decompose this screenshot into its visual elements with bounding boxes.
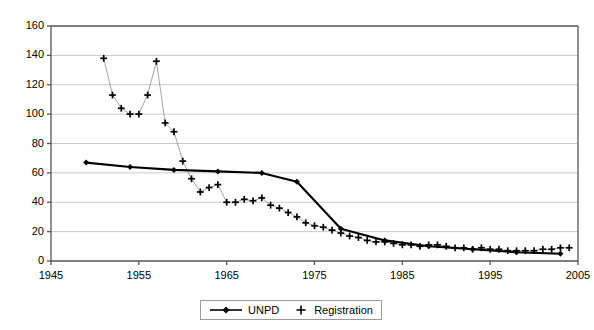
y-axis-tick-label-20: 20 [8, 225, 44, 237]
x-axis-tick-label-1955: 1955 [109, 269, 169, 281]
x-axis-tick-label-1985: 1985 [372, 269, 432, 281]
plus-marker-icon [293, 304, 309, 316]
y-axis-tick-label-100: 100 [8, 107, 44, 119]
y-axis-tick-label-160: 160 [8, 19, 44, 31]
y-axis-tick-label-40: 40 [8, 195, 44, 207]
chart-container: 020406080100120140160 194519551965197519… [0, 0, 594, 330]
x-axis-tick-label-1965: 1965 [197, 269, 257, 281]
y-axis-tick-label-140: 140 [8, 48, 44, 60]
chart-legend: UNPD Registration [200, 300, 382, 320]
y-axis-tick-label-80: 80 [8, 137, 44, 149]
line-diamond-marker-icon [209, 304, 243, 316]
y-axis-tick-label-0: 0 [8, 254, 44, 266]
y-axis-tick-label-120: 120 [8, 78, 44, 90]
x-axis-tick-label-2005: 2005 [548, 269, 594, 281]
series-line-registration [104, 58, 570, 250]
legend-label-registration: Registration [314, 304, 373, 316]
x-axis-tick-label-1975: 1975 [285, 269, 345, 281]
y-axis-tick-label-60: 60 [8, 166, 44, 178]
legend-item-unpd: UNPD [209, 304, 279, 316]
series-line-unpd [86, 163, 560, 254]
x-axis-tick-label-1995: 1995 [460, 269, 520, 281]
series-markers-unpd [83, 160, 563, 257]
x-axis-tick-label-1945: 1945 [21, 269, 81, 281]
legend-label-unpd: UNPD [248, 304, 279, 316]
legend-item-registration: Registration [293, 304, 373, 316]
